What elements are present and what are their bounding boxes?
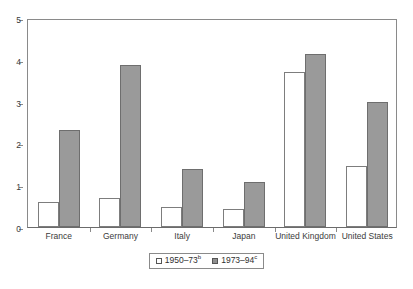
x-axis-category-label: United Kingdom	[275, 232, 337, 241]
bar-period1	[161, 207, 182, 227]
plot-area: 012345FranceGermanyItalyJapanUnited King…	[27, 19, 397, 228]
bar-period1	[223, 209, 244, 227]
legend-label: 1950–73b	[165, 256, 201, 265]
bar-period1	[99, 198, 120, 227]
bar-chart-figure: 012345FranceGermanyItalyJapanUnited King…	[0, 0, 413, 289]
bar-period2	[59, 130, 80, 227]
y-axis-tick-label: 1	[4, 183, 21, 192]
bar-period2	[305, 54, 326, 227]
legend-item: 1973–94c	[212, 256, 257, 265]
bar-period2	[120, 65, 141, 227]
legend-label: 1973–94c	[221, 256, 257, 265]
y-axis-tick-label: 0	[4, 225, 21, 234]
bar-group	[213, 20, 275, 227]
x-axis-category-label: France	[28, 232, 90, 241]
legend-swatch-gray-square	[212, 258, 218, 264]
bar-group	[336, 20, 398, 227]
x-axis-category-label: Germany	[90, 232, 152, 241]
y-axis-tick-label: 3	[4, 100, 21, 109]
legend-box: 1950–73b1973–94c	[149, 253, 265, 269]
bar-group	[90, 20, 152, 227]
y-axis-tick-label: 4	[4, 58, 21, 67]
bar-period2	[244, 182, 265, 227]
bar-group	[151, 20, 213, 227]
x-axis-category-label: Japan	[213, 232, 275, 241]
bar-period1	[38, 202, 59, 227]
bar-group	[275, 20, 337, 227]
bar-period1	[284, 72, 305, 227]
x-axis-category-label: United States	[336, 232, 398, 241]
legend-item: 1950–73b	[156, 256, 201, 265]
legend-swatch-white-square	[156, 258, 162, 264]
bar-period2	[367, 102, 388, 227]
legend-label-superscript: b	[198, 254, 201, 260]
bar-group	[28, 20, 90, 227]
chart-legend: 1950–73b1973–94c	[0, 253, 413, 269]
y-axis-tick-label: 5	[4, 16, 21, 25]
y-axis-tick-label: 2	[4, 141, 21, 150]
x-axis-category-label: Italy	[151, 232, 213, 241]
legend-label-superscript: c	[254, 254, 257, 260]
bar-period1	[346, 166, 367, 227]
bar-period2	[182, 169, 203, 227]
